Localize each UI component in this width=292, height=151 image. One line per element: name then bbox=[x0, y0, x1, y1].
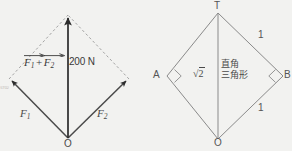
canvas-background bbox=[0, 0, 292, 151]
figure-canvas bbox=[0, 0, 292, 151]
